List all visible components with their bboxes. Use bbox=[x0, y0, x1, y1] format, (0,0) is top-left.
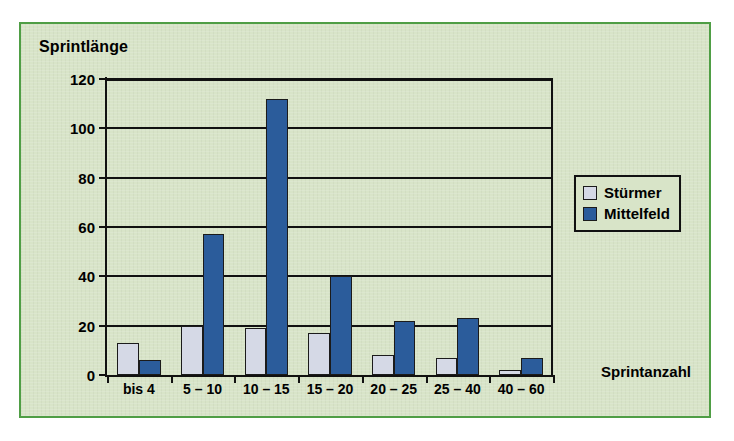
y-tick bbox=[99, 127, 107, 129]
y-tick-label: 60 bbox=[78, 219, 95, 236]
y-tick-label: 20 bbox=[78, 317, 95, 334]
chart-figure: Sprintlänge Sprintanzahl 020406080100120… bbox=[19, 22, 711, 418]
x-tick bbox=[298, 375, 300, 383]
y-tick bbox=[99, 374, 107, 376]
x-category-label: 5 – 10 bbox=[183, 381, 222, 397]
y-tick-label: 120 bbox=[70, 71, 95, 88]
y-tick bbox=[99, 78, 107, 80]
legend-label-mittelfeld: Mittelfeld bbox=[604, 205, 670, 222]
bar-mittelfeld-6 bbox=[521, 358, 543, 375]
legend-item-1: Mittelfeld bbox=[583, 203, 670, 224]
bar-mittelfeld-4 bbox=[394, 321, 416, 375]
bar-mittelfeld-5 bbox=[457, 318, 479, 375]
x-category-label: 15 – 20 bbox=[307, 381, 354, 397]
gridline bbox=[107, 177, 553, 179]
x-tick bbox=[171, 375, 173, 383]
plot-area: 020406080100120 bis 45 – 1010 – 1515 – 2… bbox=[107, 79, 553, 375]
bar-sturmer-3 bbox=[308, 333, 330, 375]
x-tick bbox=[553, 375, 555, 383]
bar-mittelfeld-3 bbox=[330, 276, 352, 375]
bar-sturmer-5 bbox=[436, 358, 458, 375]
legend-label-sturmer: Stürmer bbox=[604, 184, 662, 201]
y-tick bbox=[99, 177, 107, 179]
x-tick bbox=[362, 375, 364, 383]
x-tick bbox=[234, 375, 236, 383]
bar-sturmer-0 bbox=[117, 343, 139, 375]
bar-mittelfeld-2 bbox=[266, 99, 288, 375]
x-axis-title: Sprintanzahl bbox=[601, 363, 691, 380]
gridline bbox=[107, 127, 553, 129]
bar-mittelfeld-1 bbox=[203, 234, 225, 375]
x-tick bbox=[489, 375, 491, 383]
x-tick bbox=[426, 375, 428, 383]
x-category-label: bis 4 bbox=[123, 381, 155, 397]
x-category-label: 10 – 15 bbox=[243, 381, 290, 397]
x-category-label: 40 – 60 bbox=[498, 381, 545, 397]
legend-item-0: Stürmer bbox=[583, 182, 670, 203]
bar-sturmer-1 bbox=[181, 326, 203, 375]
legend-swatch-mittelfeld bbox=[583, 207, 597, 221]
bar-sturmer-2 bbox=[245, 328, 267, 375]
x-tick bbox=[107, 375, 109, 383]
y-tick bbox=[99, 325, 107, 327]
y-tick bbox=[99, 275, 107, 277]
y-tick-label: 40 bbox=[78, 268, 95, 285]
y-tick-label: 100 bbox=[70, 120, 95, 137]
y-tick-label: 80 bbox=[78, 169, 95, 186]
x-category-label: 25 – 40 bbox=[434, 381, 481, 397]
bar-sturmer-6 bbox=[499, 370, 521, 375]
y-axis-title: Sprintlänge bbox=[39, 38, 128, 56]
x-category-label: 20 – 25 bbox=[370, 381, 417, 397]
gridline bbox=[107, 78, 553, 80]
y-tick bbox=[99, 226, 107, 228]
y-tick-label: 0 bbox=[87, 367, 95, 384]
legend-swatch-sturmer bbox=[583, 186, 597, 200]
bar-sturmer-4 bbox=[372, 355, 394, 375]
bar-mittelfeld-0 bbox=[139, 360, 161, 375]
gridline bbox=[107, 226, 553, 228]
legend: Stürmer Mittelfeld bbox=[574, 175, 681, 232]
